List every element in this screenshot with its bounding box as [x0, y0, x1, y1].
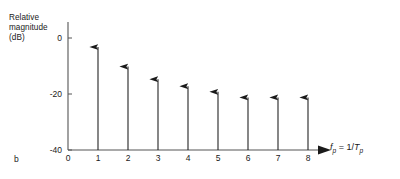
x-axis-title-denominator-sub: p	[359, 147, 363, 154]
x-tick-label-4: 4	[181, 153, 195, 163]
x-tick-label-8: 8	[301, 153, 315, 163]
figure-letter: b	[14, 154, 19, 164]
x-tick-label-1: 1	[91, 153, 105, 163]
spectral-lines	[98, 47, 308, 150]
spectrum-figure: Relative magnitude (dB) b fp = 1/Tp	[0, 0, 400, 179]
x-tick-label-0: 0	[61, 153, 75, 163]
x-axis-title-equals: = 1/	[336, 142, 354, 152]
y-tick-label-minus20: -20	[36, 89, 62, 99]
axes	[68, 22, 331, 154]
y-axis-label-line-2: magnitude	[9, 23, 67, 33]
y-axis-ticks	[68, 38, 72, 150]
x-axis-title-denominator: Tp	[354, 142, 363, 152]
x-axis-title: fp = 1/Tp	[330, 142, 363, 154]
x-tick-label-3: 3	[151, 153, 165, 163]
x-tick-label-6: 6	[241, 153, 255, 163]
x-tick-label-2: 2	[121, 153, 135, 163]
y-axis-label-line-1: Relative	[9, 13, 67, 23]
x-tick-label-7: 7	[271, 153, 285, 163]
y-tick-label-0: 0	[40, 33, 62, 43]
y-tick-label-minus40: -40	[36, 145, 62, 155]
x-tick-label-5: 5	[211, 153, 225, 163]
